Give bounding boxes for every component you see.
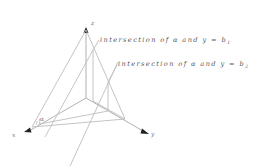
y-arrow-icon bbox=[141, 129, 150, 135]
x-axis: x bbox=[12, 98, 86, 138]
x-arrow-icon bbox=[24, 128, 32, 133]
y-axis-label: y bbox=[150, 130, 155, 138]
y-axis: y bbox=[86, 98, 155, 138]
annotation-b2: intersection of α and y = b2 bbox=[118, 60, 249, 69]
leader-line-b2 bbox=[108, 65, 117, 82]
intersection-lines bbox=[40, 50, 125, 166]
alpha-label: α bbox=[40, 115, 44, 122]
z-axis-label: z bbox=[90, 19, 95, 26]
x-axis-label: x bbox=[12, 131, 16, 138]
leader-line-b1 bbox=[93, 40, 99, 50]
3d-plane-intersection-diagram: z x y α intersection of α and y = b1 bbox=[0, 0, 260, 166]
annotation-b1: intersection of α and y = b1 bbox=[100, 36, 231, 45]
